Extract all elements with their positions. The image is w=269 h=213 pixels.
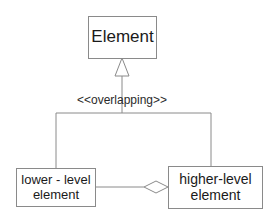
generalization-triangle-icon (115, 58, 129, 76)
element-class-box: Element (88, 16, 157, 59)
higher-level-label-line2: element (191, 188, 241, 203)
lower-level-label-line1: lower - level (21, 173, 90, 187)
lower-level-label-line2: element (33, 188, 79, 202)
higher-level-element-box: higher-level element (168, 166, 263, 209)
overlapping-stereotype-label: <<overlapping>> (62, 93, 182, 107)
aggregation-diamond-icon (144, 181, 168, 193)
lower-level-element-box: lower - level element (16, 168, 96, 207)
higher-level-label-line1: higher-level (179, 172, 251, 187)
element-class-label: Element (91, 28, 153, 47)
